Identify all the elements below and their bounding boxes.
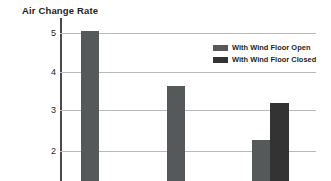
chart-title: Air Change Rate: [22, 5, 98, 16]
legend-swatch-open: [213, 45, 228, 51]
legend-swatch-closed: [213, 57, 228, 63]
bar: [252, 140, 270, 181]
bar: [81, 31, 99, 181]
chart-container: Air Change Rate 5 4 3 2 With Wind Floor …: [0, 0, 331, 181]
y-tick-label-3: 3: [40, 106, 56, 115]
y-axis-tick-labels: 5 4 3 2: [38, 0, 56, 181]
bar: [167, 86, 185, 181]
y-tick-label-5: 5: [40, 29, 56, 38]
bar: [270, 103, 289, 181]
y-tick-label-2: 2: [40, 147, 56, 156]
legend-item-closed[interactable]: With Wind Floor Closed: [213, 54, 328, 65]
legend-item-open[interactable]: With Wind Floor Open: [213, 42, 328, 53]
legend-label-closed: With Wind Floor Closed: [232, 55, 316, 64]
legend-label-open: With Wind Floor Open: [232, 43, 310, 52]
chart-legend: With Wind Floor Open With Wind Floor Clo…: [213, 42, 328, 66]
y-tick-label-4: 4: [40, 68, 56, 77]
